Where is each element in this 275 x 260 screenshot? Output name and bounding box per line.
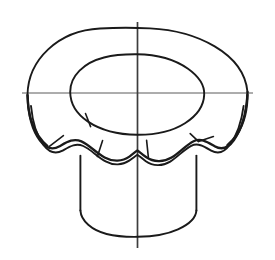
drawing-canvas	[0, 0, 275, 260]
flute-crimp-tick-4	[147, 140, 149, 157]
cylindrical-barrel-group	[80, 156, 196, 237]
barrel-bottom-arc	[80, 210, 196, 236]
technical-drawing	[0, 0, 275, 260]
